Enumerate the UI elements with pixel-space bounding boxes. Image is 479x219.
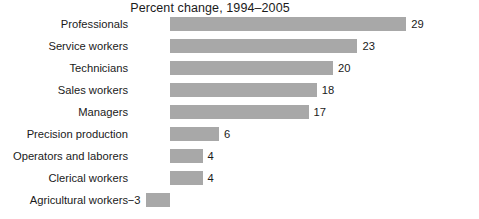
bar: [170, 149, 203, 163]
category-label: Operators and laborers: [0, 149, 128, 163]
bar: [146, 193, 170, 207]
value-label: 29: [411, 17, 423, 31]
category-label: Clerical workers: [0, 171, 128, 185]
plot-area: Professionals29Service workers23Technici…: [0, 17, 479, 217]
value-label: 17: [314, 105, 326, 119]
bar-row: Sales workers18: [0, 83, 479, 105]
category-label: Sales workers: [0, 83, 128, 97]
bar: [170, 17, 406, 31]
category-label: Precision production: [0, 127, 128, 141]
bar-row: Service workers23: [0, 39, 479, 61]
bar-row: Clerical workers4: [0, 171, 479, 193]
value-label: −3: [118, 193, 141, 207]
bar: [170, 171, 203, 185]
value-label: 4: [208, 171, 214, 185]
category-label: Professionals: [0, 17, 128, 31]
value-label: 18: [322, 83, 334, 97]
category-label: Service workers: [0, 39, 128, 53]
bar: [170, 83, 317, 97]
value-label: 23: [362, 39, 374, 53]
bar-row: Operators and laborers4: [0, 149, 479, 171]
category-label: Agricultural workers: [0, 193, 128, 207]
bar: [170, 105, 309, 119]
bar-chart: Percent change, 1994–2005 Professionals2…: [0, 0, 479, 219]
bar: [170, 39, 357, 53]
bar: [170, 127, 219, 141]
bar-row: Precision production6: [0, 127, 479, 149]
bar: [170, 61, 333, 75]
chart-title: Percent change, 1994–2005: [0, 1, 420, 15]
bar-row: Technicians20: [0, 61, 479, 83]
value-label: 20: [338, 61, 350, 75]
value-label: 6: [224, 127, 230, 141]
bar-row: Agricultural workers−3: [0, 193, 479, 215]
bar-row: Managers17: [0, 105, 479, 127]
bar-row: Professionals29: [0, 17, 479, 39]
value-label: 4: [208, 149, 214, 163]
category-label: Technicians: [0, 61, 128, 75]
category-label: Managers: [0, 105, 128, 119]
